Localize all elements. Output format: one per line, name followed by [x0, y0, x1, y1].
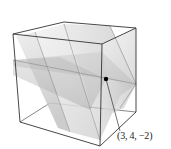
- point-label: (3, 4, −2): [117, 130, 152, 141]
- cube-diagram: [0, 0, 171, 149]
- intersection-point: [104, 77, 108, 81]
